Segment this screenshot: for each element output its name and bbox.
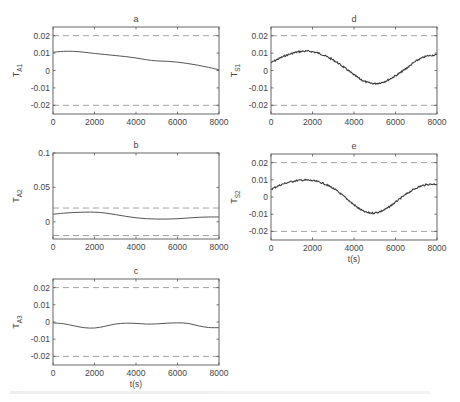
x-tick-label: 0 [269,117,274,127]
y-tick-label: 0.05 [33,182,50,192]
axes-box [271,27,437,114]
y-tick-label: 0 [263,192,268,202]
subplot-title: e [351,141,356,151]
subplot-b: 0200040006000800000.050.1bTA2 [11,140,229,252]
subplot-d: 02000400060008000-0.02-0.0100.010.02dTS1 [229,14,447,127]
y-tick-label: 0.02 [33,283,50,293]
y-tick-label: 0.02 [33,31,50,41]
y-tick-label: 0.01 [251,175,268,185]
y-tick-label: -0.02 [249,100,269,110]
subplot-title: a [133,14,138,24]
series-line [271,179,437,213]
axes-box [53,279,219,365]
y-tick-label: 0.02 [251,31,268,41]
x-tick-label: 8000 [210,368,229,378]
x-tick-label: 8000 [428,117,447,127]
x-tick-label: 6000 [168,117,187,127]
y-axis-label: TS2 [229,190,241,204]
x-tick-label: 2000 [85,117,104,127]
x-tick-label: 6000 [386,117,405,127]
y-axis-label: TS1 [229,63,241,77]
y-axis-label: TA2 [11,189,23,203]
series-line [53,51,219,70]
y-tick-label: -0.02 [31,351,51,361]
series-line [53,323,219,328]
subplot-e: 02000400060008000-0.02-0.0100.010.02eTS2… [229,141,447,264]
y-axis-label: TA3 [11,315,23,329]
subplot-title: d [351,14,356,24]
x-tick-label: 8000 [210,242,229,252]
axes-box [53,153,219,239]
x-tick-label: 2000 [303,243,322,253]
y-tick-label: 0.01 [251,48,268,58]
x-tick-label: 2000 [303,117,322,127]
x-axis-label: t(s) [348,254,360,264]
subplot-title: b [133,140,138,150]
x-tick-label: 8000 [210,117,229,127]
y-tick-label: 0 [45,317,50,327]
x-tick-label: 6000 [386,243,405,253]
y-tick-label: -0.01 [249,83,269,93]
subplot-title: c [134,266,139,276]
y-axis-label: TA1 [11,63,23,77]
y-tick-label: 0.01 [33,48,50,58]
series-line [53,212,219,219]
y-tick-label: 0.02 [251,158,268,168]
x-tick-label: 8000 [428,243,447,253]
x-tick-label: 2000 [85,242,104,252]
subplot-c: 02000400060008000-0.02-0.0100.010.02cTA3… [11,266,229,389]
y-tick-label: -0.02 [31,100,51,110]
x-tick-label: 6000 [168,242,187,252]
x-axis-label: t(s) [130,379,142,389]
x-tick-label: 0 [51,368,56,378]
subplot-a: 02000400060008000-0.02-0.0100.010.02aTA1 [11,14,229,127]
x-tick-label: 4000 [127,242,146,252]
axes-box [53,27,219,114]
figure: 02000400060008000-0.02-0.0100.010.02aTA1… [0,0,460,402]
y-tick-label: -0.01 [31,334,51,344]
x-tick-label: 4000 [127,368,146,378]
x-tick-label: 4000 [127,117,146,127]
x-tick-label: 0 [51,117,56,127]
y-tick-label: 0.1 [38,148,50,158]
y-tick-label: 0 [45,217,50,227]
x-tick-label: 0 [51,242,56,252]
y-tick-label: -0.01 [31,83,51,93]
y-tick-label: -0.02 [249,226,269,236]
y-tick-label: -0.01 [249,209,269,219]
y-tick-label: 0.01 [33,300,50,310]
y-tick-label: 0 [263,66,268,76]
x-tick-label: 4000 [345,117,364,127]
x-tick-label: 6000 [168,368,187,378]
y-tick-label: 0 [45,66,50,76]
x-tick-label: 0 [269,243,274,253]
x-tick-label: 2000 [85,368,104,378]
series-line [271,51,437,85]
axes-box [271,154,437,240]
x-tick-label: 4000 [345,243,364,253]
figure-caption-faint [10,391,430,394]
